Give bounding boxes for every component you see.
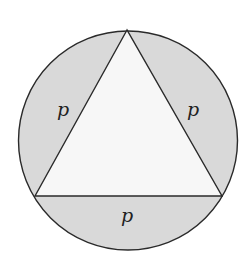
diagram-canvas: p p p [0,0,251,261]
label-bottom-segment: p [121,204,133,226]
label-left-segment: p [57,98,69,120]
label-right-segment: p [187,98,199,120]
